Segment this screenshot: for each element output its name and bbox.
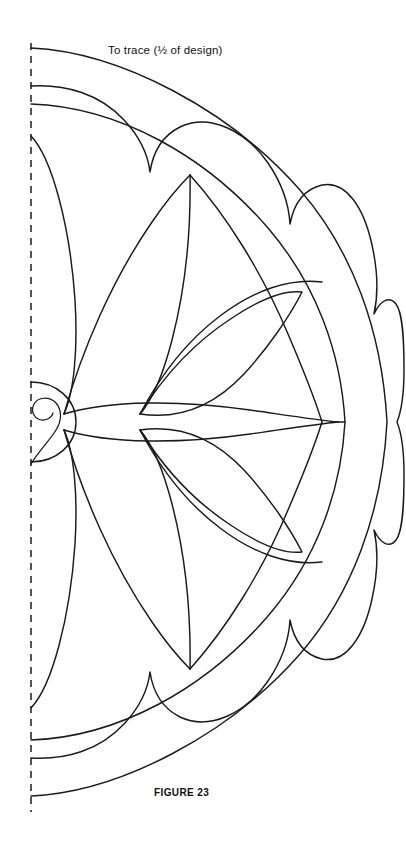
petal-upper-2-outer <box>64 175 190 414</box>
center-medallion-inner-spiral <box>31 398 61 464</box>
figure-caption: FIGURE 23 <box>154 787 209 798</box>
figure-page: To trace (½ of design) FIGURE 23 <box>0 0 406 855</box>
petal-lower-1 <box>31 430 76 708</box>
quilting-design-drawing <box>0 0 406 855</box>
petal-lower-3 <box>190 422 322 669</box>
petal-upper-1 <box>31 136 76 414</box>
petal-upper-3-rib <box>140 281 322 414</box>
scalloped-band-outer-edge <box>31 86 404 758</box>
inner-ring-arc <box>31 104 345 740</box>
petal-lower-3-rib <box>140 430 322 563</box>
petal-lower-2-outer <box>64 430 190 669</box>
trace-note-label: To trace (½ of design) <box>108 44 223 56</box>
petal-upper-3 <box>190 175 322 422</box>
